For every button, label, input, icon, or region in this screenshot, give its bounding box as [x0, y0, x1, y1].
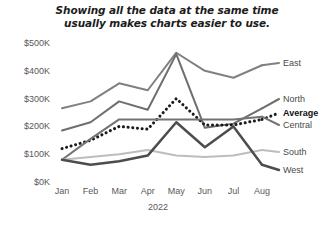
line-chart: Showing all the data at the same time us…: [0, 0, 334, 226]
series-label-east: East: [283, 58, 301, 68]
series-label-central: Central: [283, 120, 312, 130]
x-axis-label: 2022: [56, 202, 260, 212]
x-axis-tick-label: Jan: [47, 186, 77, 196]
series-label-north: North: [283, 94, 305, 104]
x-axis-tick-label: May: [161, 186, 191, 196]
x-axis-tick-label: Mar: [104, 186, 134, 196]
x-axis-tick-label: Aug: [247, 186, 277, 196]
series-label-west: West: [283, 165, 303, 175]
series-label-south: South: [283, 147, 307, 157]
x-axis-tick-label: Jul: [218, 186, 248, 196]
x-axis-tick-label: Feb: [76, 186, 106, 196]
x-axis-tick-label: Apr: [133, 186, 163, 196]
x-axis-tick-label: Jun: [190, 186, 220, 196]
series-label-average: Average: [283, 108, 318, 118]
